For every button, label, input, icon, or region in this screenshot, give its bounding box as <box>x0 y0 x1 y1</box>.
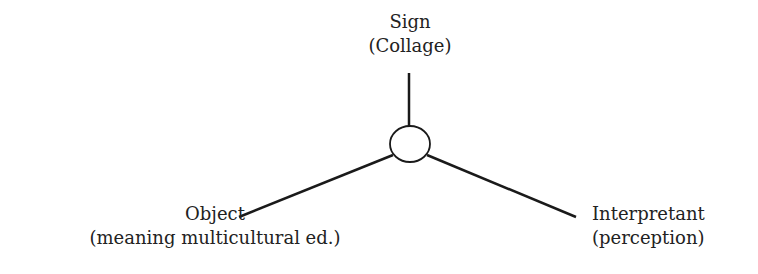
interpretant-title: Interpretant <box>592 202 705 226</box>
object-label: Object (meaning multicultural ed.) <box>85 202 345 250</box>
object-subtitle: (meaning multicultural ed.) <box>85 226 345 250</box>
object-title: Object <box>85 202 345 226</box>
interpretant-label: Interpretant (perception) <box>592 202 705 250</box>
sign-title: Sign <box>355 10 465 34</box>
interpretant-connector <box>427 155 576 217</box>
interpretant-subtitle: (perception) <box>592 226 705 250</box>
center-junction-circle <box>390 126 430 162</box>
sign-subtitle: (Collage) <box>355 34 465 58</box>
sign-label: Sign (Collage) <box>355 10 465 58</box>
